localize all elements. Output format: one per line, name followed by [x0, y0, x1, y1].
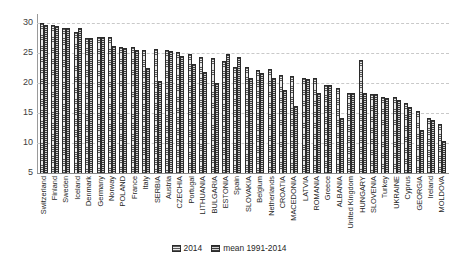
bar-mean — [260, 73, 264, 173]
legend-swatch-icon — [172, 245, 181, 252]
bar-mean — [294, 106, 298, 173]
bar-mean — [283, 90, 287, 173]
x-axis-label: ESTONIA — [222, 176, 229, 208]
bar-group — [368, 14, 379, 173]
bar-group — [323, 14, 334, 173]
bar-group — [346, 14, 357, 173]
bar-mean — [89, 38, 93, 173]
x-label-cell: Cyprus — [403, 176, 414, 242]
bar-mean — [146, 68, 150, 173]
x-label-cell: Ireland — [425, 176, 436, 242]
x-label-cell: SLOVAKIA — [243, 176, 254, 242]
y-tick-label-25: 25 — [8, 47, 33, 57]
bar-mean — [317, 93, 321, 173]
x-axis-label: France — [131, 176, 138, 199]
x-label-cell: ESTONIA — [220, 176, 231, 242]
y-tick-label-20: 20 — [8, 77, 33, 87]
x-label-cell: ROMANIA — [311, 176, 322, 242]
x-label-cell: Finland — [49, 176, 60, 242]
bar-mean — [363, 93, 367, 173]
bar-group — [311, 14, 322, 173]
bar-group — [300, 14, 311, 173]
bar-group — [197, 14, 208, 173]
bar-group — [380, 14, 391, 173]
bar-mean — [123, 48, 127, 173]
x-label-cell: Netherlands — [266, 176, 277, 242]
bar-mean — [408, 107, 412, 173]
x-axis-label: SERBIA — [154, 176, 161, 203]
bar-group — [220, 14, 231, 173]
x-label-cell: CROATIA — [277, 176, 288, 242]
bar-group — [141, 14, 152, 173]
bar-group — [118, 14, 129, 173]
x-label-cell: CZECHIA — [175, 176, 186, 242]
x-axis-label: Iceland — [74, 176, 81, 200]
x-label-cell: Sweden — [61, 176, 72, 242]
legend-item[interactable]: 2014 — [172, 243, 203, 253]
x-label-cell: France — [129, 176, 140, 242]
x-axis-label: Greece — [325, 176, 332, 200]
x-label-cell: Turkey — [380, 176, 391, 242]
bar-group — [129, 14, 140, 173]
legend-swatch-icon — [211, 245, 220, 252]
y-tick-label-15: 15 — [8, 107, 33, 117]
bar-mean — [420, 130, 424, 173]
bar-mean — [169, 51, 173, 173]
bar-mean — [397, 100, 401, 173]
bar-mean — [385, 98, 389, 173]
bar-mean — [158, 81, 162, 173]
bar-mean — [55, 26, 59, 173]
bar-group — [38, 14, 49, 173]
x-label-cell: GEORGIA — [414, 176, 425, 242]
x-label-cell: HUNGARY — [357, 176, 368, 242]
x-axis-label: Norway — [108, 176, 115, 201]
bar-group — [289, 14, 300, 173]
x-axis-label: Denmark — [86, 176, 93, 206]
bar-group — [186, 14, 197, 173]
x-axis-label: CROATIA — [279, 176, 286, 208]
bar-mean — [351, 93, 355, 173]
x-axis-label: SLOVAKIA — [245, 176, 252, 212]
bar-group — [175, 14, 186, 173]
x-axis-label: CZECHIA — [177, 176, 184, 208]
x-axis-label: Austria — [165, 176, 172, 199]
legend-label: 2014 — [184, 243, 203, 253]
bar-mean — [249, 78, 253, 173]
x-axis-label: Sweden — [63, 176, 70, 203]
x-axis-label: GEORGIA — [416, 176, 423, 211]
x-label-cell: Germany — [95, 176, 106, 242]
bar-mean — [180, 56, 184, 173]
legend-item[interactable]: mean 1991-2014 — [211, 243, 286, 253]
x-axis-label: LITHUANIA — [199, 176, 206, 215]
x-axis-category-labels: SwitzerlandFinlandSwedenIcelandDenmarkGe… — [37, 176, 449, 242]
x-label-cell: POLAND — [118, 176, 129, 242]
x-label-cell: SERBIA — [152, 176, 163, 242]
bar-mean — [192, 64, 196, 173]
bar-mean — [101, 37, 105, 173]
bar-group — [357, 14, 368, 173]
bar-mean — [135, 50, 139, 173]
bar-group — [437, 14, 448, 173]
bar-mean — [237, 57, 241, 173]
bar-group — [243, 14, 254, 173]
bar-group — [277, 14, 288, 173]
x-axis-label: Belgium — [256, 176, 263, 203]
bar-group — [391, 14, 402, 173]
bar-group — [61, 14, 72, 173]
x-label-cell: Belgium — [254, 176, 265, 242]
y-tick-label-30: 30 — [8, 17, 33, 27]
bar-group — [266, 14, 277, 173]
bar-group — [106, 14, 117, 173]
bar-mean — [306, 79, 310, 173]
x-label-cell: Spain — [232, 176, 243, 242]
x-axis-label: MACEDONIA — [291, 176, 298, 221]
bar-mean — [374, 94, 378, 173]
x-axis-label: Portugal — [188, 176, 195, 204]
x-axis-label: HUNGARY — [359, 176, 366, 213]
bar-group — [254, 14, 265, 173]
bar-mean — [431, 120, 435, 173]
bar-group — [414, 14, 425, 173]
x-label-cell: Switzerland — [38, 176, 49, 242]
x-axis-label: Italy — [143, 176, 150, 190]
bar-group — [49, 14, 60, 173]
